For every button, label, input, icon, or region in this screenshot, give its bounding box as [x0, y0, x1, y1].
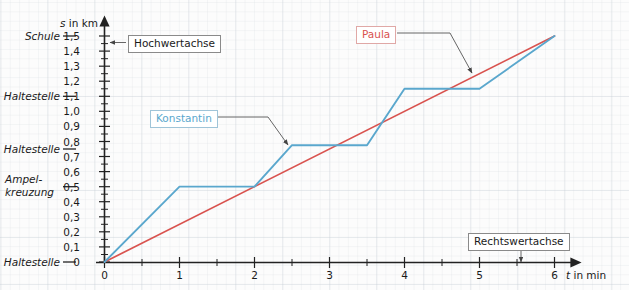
- callout-hochwertachse[interactable]: Hochwertachse: [128, 35, 221, 53]
- series-line-paula: [105, 36, 555, 262]
- y-axis-title: s in km: [60, 18, 98, 29]
- leader-paula: [397, 33, 472, 73]
- y-tick-label-1_4: 1,4: [46, 46, 80, 57]
- category-label-schule: Schule: [0, 31, 60, 42]
- x-tick-label-1: 1: [170, 270, 190, 281]
- y-tick-label-1_0: 1,0: [46, 106, 80, 117]
- category-label-ampelkreuzung-line2: kreuzung: [5, 187, 54, 198]
- x-tick-label-2: 2: [245, 270, 265, 281]
- y-tick-label-1_3: 1,3: [46, 61, 80, 72]
- x-axis-title: t in min: [566, 270, 606, 281]
- y-tick-label-0_3: 0,3: [46, 212, 80, 223]
- distance-time-chart: 0 0,1 0,2 0,3 0,4 0,5 0,6 0,7 0,8 0,9 1,…: [0, 0, 629, 290]
- category-label-haltestelle-top: Haltestelle: [0, 91, 60, 102]
- x-axis-title-unit: in min: [570, 269, 606, 281]
- category-label-haltestelle-bottom: Haltestelle: [0, 257, 60, 268]
- x-tick-label-4: 4: [395, 270, 415, 281]
- x-tick-label-0: 0: [95, 270, 115, 281]
- category-label-ampelkreuzung-line1: Ampel-: [5, 174, 42, 185]
- category-label-haltestelle-mid: Haltestelle: [0, 144, 60, 155]
- callout-rechtswertachse[interactable]: Rechtswertachse: [468, 233, 570, 251]
- callout-paula[interactable]: Paula: [356, 26, 396, 44]
- y-axis-title-unit: in km: [65, 17, 98, 29]
- x-tick-label-6: 6: [545, 270, 565, 281]
- x-tick-label-5: 5: [470, 270, 490, 281]
- y-tick-label-0_4: 0,4: [46, 197, 80, 208]
- callout-konstantin[interactable]: Konstantin: [150, 110, 218, 128]
- y-tick-label-0_1: 0,1: [46, 242, 80, 253]
- x-tick-label-3: 3: [320, 270, 340, 281]
- y-tick-label-1_2: 1,2: [46, 76, 80, 87]
- y-tick-label-0_2: 0,2: [46, 227, 80, 238]
- y-tick-label-0_9: 0,9: [46, 121, 80, 132]
- leader-konstantin: [213, 117, 288, 145]
- y-tick-label-0_6: 0,6: [46, 167, 80, 178]
